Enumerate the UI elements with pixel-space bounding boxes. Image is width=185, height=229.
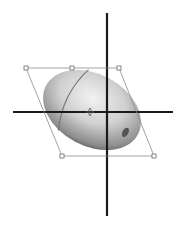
transform-handle-3[interactable] [152,154,156,158]
transform-handle-2[interactable] [117,66,121,70]
transform-handle-0[interactable] [24,66,28,70]
transform-canvas[interactable] [0,0,185,229]
transform-handle-1[interactable] [70,66,74,70]
transform-handle-4[interactable] [60,154,64,158]
